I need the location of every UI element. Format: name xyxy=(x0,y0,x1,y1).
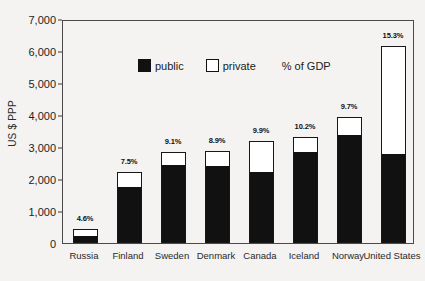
x-axis-label-norway: Norway xyxy=(332,250,364,261)
chart-legend: public private % of GDP xyxy=(138,59,331,72)
bar-percent-label: 7.5% xyxy=(121,157,138,166)
legend-item-public: public xyxy=(138,59,184,72)
bar-group: 9.1% xyxy=(161,19,186,243)
stacked-bar-norway xyxy=(337,117,362,243)
bar-group: 7.5% xyxy=(117,19,142,243)
bar-segment-public xyxy=(162,165,185,242)
legend-item-private: private xyxy=(206,59,256,72)
bar-chart: US $ PPP 01,0002,0003,0004,0005,0006,000… xyxy=(0,0,425,281)
legend-swatch-public-icon xyxy=(138,59,151,72)
legend-label-public: public xyxy=(155,60,184,72)
bar-group: 8.9% xyxy=(205,19,230,243)
x-axis-label-finland: Finland xyxy=(112,250,143,261)
bar-segment-public xyxy=(74,236,97,242)
bar-segment-public xyxy=(382,154,405,242)
bar-segment-public xyxy=(118,187,141,242)
bar-group: 9.9% xyxy=(249,19,274,243)
x-axis-label-united-states: United States xyxy=(363,250,420,261)
y-tick-label: 4,000 xyxy=(10,110,56,122)
bar-group: 9.7% xyxy=(337,19,362,243)
y-tick-label: 7,000 xyxy=(10,14,56,26)
y-tick-label: 1,000 xyxy=(10,206,56,218)
stacked-bar-united-states xyxy=(381,46,406,243)
x-axis-label-sweden: Sweden xyxy=(155,250,189,261)
y-tick-label: 3,000 xyxy=(10,142,56,154)
x-axis-label-iceland: Iceland xyxy=(289,250,320,261)
legend-swatch-private-icon xyxy=(206,59,219,72)
bar-percent-label: 9.1% xyxy=(165,137,182,146)
bar-percent-label: 9.9% xyxy=(253,126,270,135)
bar-percent-label: 15.3% xyxy=(383,31,404,40)
bar-percent-label: 4.6% xyxy=(77,214,94,223)
x-axis-label-russia: Russia xyxy=(69,250,98,261)
y-tick-label: 6,000 xyxy=(10,46,56,58)
stacked-bar-denmark xyxy=(205,151,230,243)
bar-segment-public xyxy=(206,166,229,242)
x-axis-label-canada: Canada xyxy=(243,250,276,261)
stacked-bar-sweden xyxy=(161,152,186,243)
y-tick-label: 2,000 xyxy=(10,174,56,186)
stacked-bar-finland xyxy=(117,172,142,243)
y-tick-label: 5,000 xyxy=(10,78,56,90)
bar-percent-label: 10.2% xyxy=(295,122,316,131)
stacked-bar-russia xyxy=(73,229,98,243)
bar-group: 4.6% xyxy=(73,19,98,243)
stacked-bar-iceland xyxy=(293,137,318,243)
bar-segment-public xyxy=(250,172,273,242)
y-tick-label: 0 xyxy=(10,238,56,250)
legend-note-gdp: % of GDP xyxy=(282,60,331,72)
x-axis-label-denmark: Denmark xyxy=(197,250,236,261)
bar-group: 10.2% xyxy=(293,19,318,243)
bar-percent-label: 8.9% xyxy=(209,136,226,145)
plot-area: 4.6%7.5%9.1%8.9%9.9%10.2%9.7%15.3% publi… xyxy=(62,20,414,244)
bar-group: 15.3% xyxy=(381,19,406,243)
bar-segment-public xyxy=(338,135,361,242)
bar-percent-label: 9.7% xyxy=(341,102,358,111)
bar-segment-public xyxy=(294,152,317,242)
stacked-bar-canada xyxy=(249,141,274,243)
legend-label-private: private xyxy=(223,60,256,72)
